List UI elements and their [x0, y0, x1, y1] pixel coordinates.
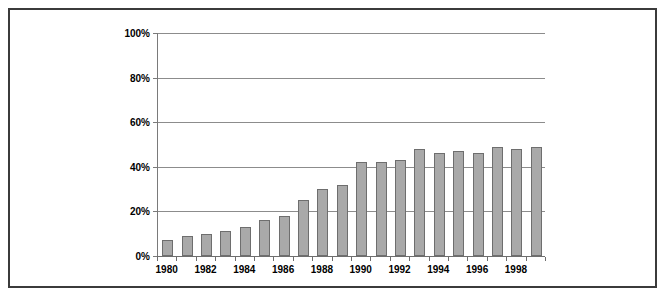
y-tick-mark — [153, 33, 157, 34]
bar-1988 — [317, 189, 328, 256]
x-tick-label-1980: 1980 — [156, 264, 178, 275]
bar-1987 — [298, 200, 309, 256]
y-tick-mark — [153, 122, 157, 123]
bar-1991 — [376, 162, 387, 256]
y-tick-mark — [153, 211, 157, 212]
x-tick-mark — [157, 257, 158, 261]
x-tick-label-1984: 1984 — [233, 264, 255, 275]
bar-1984 — [240, 227, 251, 256]
bar-1999 — [531, 147, 542, 256]
bar-1998 — [511, 149, 522, 256]
bar-1989 — [337, 185, 348, 256]
y-tick-label: 20% — [130, 206, 150, 217]
y-tick-mark — [153, 167, 157, 168]
x-tick-label-1998: 1998 — [505, 264, 527, 275]
bar-1995 — [453, 151, 464, 256]
x-tick-label-1982: 1982 — [194, 264, 216, 275]
x-tick-label-1986: 1986 — [272, 264, 294, 275]
bars-group — [158, 33, 545, 256]
y-tick-label: 100% — [124, 28, 150, 39]
x-tick-mark — [506, 257, 507, 261]
bar-1981 — [182, 236, 193, 256]
x-tick-mark — [545, 257, 546, 261]
x-tick-label-1996: 1996 — [466, 264, 488, 275]
y-tick-label: 60% — [130, 117, 150, 128]
x-tick-mark — [448, 257, 449, 261]
x-tick-label-1992: 1992 — [388, 264, 410, 275]
bar-1992 — [395, 160, 406, 256]
x-tick-mark — [196, 257, 197, 261]
bar-1985 — [259, 220, 270, 256]
bar-chart: 0%20%40%60%80%100% 198019821984198619881… — [10, 10, 655, 286]
x-tick-mark — [526, 257, 527, 261]
x-tick-mark — [351, 257, 352, 261]
bar-1994 — [434, 153, 445, 256]
bar-1982 — [201, 234, 212, 256]
x-tick-mark — [273, 257, 274, 261]
x-tick-mark — [176, 257, 177, 261]
x-tick-mark — [390, 257, 391, 261]
x-tick-mark — [254, 257, 255, 261]
bar-1990 — [356, 162, 367, 256]
x-tick-label-1994: 1994 — [427, 264, 449, 275]
bar-1983 — [220, 231, 231, 256]
plot-area: 0%20%40%60%80%100% 198019821984198619881… — [157, 33, 545, 256]
y-tick-label: 0% — [136, 251, 150, 262]
x-tick-mark — [215, 257, 216, 261]
x-tick-mark — [409, 257, 410, 261]
bar-1996 — [473, 153, 484, 256]
x-tick-mark — [487, 257, 488, 261]
y-tick-label: 40% — [130, 161, 150, 172]
x-tick-mark — [332, 257, 333, 261]
bar-1997 — [492, 147, 503, 256]
x-tick-label-1990: 1990 — [350, 264, 372, 275]
y-tick-mark — [153, 78, 157, 79]
x-tick-mark — [370, 257, 371, 261]
x-tick-mark — [312, 257, 313, 261]
chart-frame: 0%20%40%60%80%100% 198019821984198619881… — [8, 8, 657, 288]
x-tick-mark — [429, 257, 430, 261]
x-tick-label-1988: 1988 — [311, 264, 333, 275]
bar-1986 — [279, 216, 290, 256]
x-tick-mark — [235, 257, 236, 261]
x-tick-mark — [467, 257, 468, 261]
x-tick-mark — [293, 257, 294, 261]
bar-1980 — [162, 240, 173, 256]
y-tick-label: 80% — [130, 72, 150, 83]
bar-1993 — [414, 149, 425, 256]
